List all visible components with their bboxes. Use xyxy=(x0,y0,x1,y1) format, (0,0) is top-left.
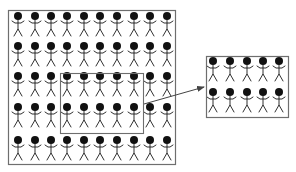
head xyxy=(130,136,138,144)
legs xyxy=(113,153,121,160)
stick-figure-icon xyxy=(78,136,90,160)
head xyxy=(259,57,267,65)
head xyxy=(63,42,71,50)
stick-figure-icon xyxy=(61,42,73,66)
head xyxy=(31,103,39,111)
legs xyxy=(243,105,251,112)
legs xyxy=(163,59,171,66)
legs xyxy=(14,89,22,96)
legs xyxy=(163,29,171,36)
legs xyxy=(113,120,121,127)
stick-figure-icon xyxy=(94,103,106,127)
legs xyxy=(146,153,154,160)
stick-figure-icon xyxy=(61,103,73,127)
stick-figure-icon xyxy=(144,42,156,66)
legs xyxy=(275,105,283,112)
head xyxy=(130,42,138,50)
head xyxy=(96,136,104,144)
stick-figure-icon xyxy=(128,136,140,160)
legs xyxy=(130,120,138,127)
arrow xyxy=(144,87,204,104)
legs xyxy=(47,29,55,36)
legs xyxy=(63,153,71,160)
head xyxy=(63,12,71,20)
head xyxy=(63,103,71,111)
legs xyxy=(80,89,88,96)
head xyxy=(14,72,22,80)
legs xyxy=(63,120,71,127)
head xyxy=(275,88,283,96)
head xyxy=(146,42,154,50)
legs xyxy=(226,105,234,112)
legs xyxy=(63,29,71,36)
stick-figure-icon xyxy=(78,12,90,36)
stick-figure-icon xyxy=(111,72,123,96)
sampling-diagram xyxy=(0,0,296,172)
legs xyxy=(146,89,154,96)
legs xyxy=(146,59,154,66)
stick-figure-icon xyxy=(45,72,57,96)
stick-figure-icon xyxy=(29,72,41,96)
legs xyxy=(47,89,55,96)
stick-figure-icon xyxy=(161,12,173,36)
head xyxy=(163,72,171,80)
legs xyxy=(96,153,104,160)
stick-figure-icon xyxy=(111,103,123,127)
head xyxy=(47,12,55,20)
head xyxy=(47,136,55,144)
head xyxy=(14,12,22,20)
legs xyxy=(130,29,138,36)
head xyxy=(226,57,234,65)
stick-figure-icon xyxy=(257,57,269,81)
head xyxy=(31,72,39,80)
stick-figure-icon xyxy=(257,88,269,112)
head xyxy=(31,136,39,144)
legs xyxy=(47,120,55,127)
legs xyxy=(113,59,121,66)
stick-figure-icon xyxy=(224,57,236,81)
stick-figure-icon xyxy=(273,57,285,81)
head xyxy=(209,57,217,65)
stick-figure-icon xyxy=(12,136,24,160)
head xyxy=(47,103,55,111)
legs xyxy=(130,153,138,160)
stick-figure-icon xyxy=(94,72,106,96)
head xyxy=(113,42,121,50)
legs xyxy=(163,120,171,127)
legs xyxy=(31,120,39,127)
stick-figure-icon xyxy=(94,42,106,66)
stick-figure-icon xyxy=(161,42,173,66)
legs xyxy=(31,153,39,160)
stick-figure-icon xyxy=(94,136,106,160)
stick-figure-icon xyxy=(61,12,73,36)
legs xyxy=(275,74,283,81)
stick-figure-icon xyxy=(45,12,57,36)
legs xyxy=(96,59,104,66)
legs xyxy=(130,59,138,66)
head xyxy=(163,136,171,144)
legs xyxy=(63,59,71,66)
legs xyxy=(130,89,138,96)
head xyxy=(14,42,22,50)
stick-figure-icon xyxy=(128,103,140,127)
legs xyxy=(31,59,39,66)
stick-figure-icon xyxy=(12,12,24,36)
stick-figure-icon xyxy=(161,136,173,160)
head xyxy=(209,88,217,96)
legs xyxy=(163,153,171,160)
stick-figure-icon xyxy=(78,72,90,96)
stick-figure-icon xyxy=(144,72,156,96)
head xyxy=(63,136,71,144)
legs xyxy=(113,29,121,36)
head xyxy=(80,136,88,144)
stick-figure-icon xyxy=(78,42,90,66)
head xyxy=(113,103,121,111)
legs xyxy=(14,29,22,36)
legs xyxy=(47,59,55,66)
head xyxy=(14,103,22,111)
stick-figure-icon xyxy=(207,88,219,112)
head xyxy=(96,12,104,20)
stick-figure-icon xyxy=(111,136,123,160)
legs xyxy=(226,74,234,81)
head xyxy=(31,12,39,20)
